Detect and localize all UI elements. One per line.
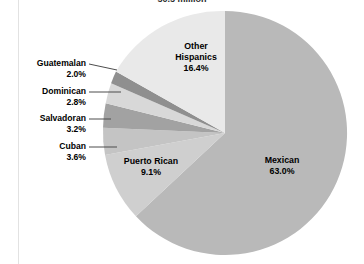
callout-dominican-pct: 2.8%	[42, 97, 86, 108]
callout-salvadoran: Salvadoran 3.2%	[40, 113, 86, 134]
callout-cuban: Cuban 3.6%	[59, 141, 86, 162]
callout-cuban-pct: 3.6%	[59, 152, 86, 163]
callout-guatemalan: Guatemalan 2.0%	[37, 58, 86, 79]
label-mexican-name: Mexican	[265, 155, 300, 165]
label-other-hispanics: Other Hispanics 16.4%	[160, 41, 232, 74]
label-puerto-rican: Puerto Rican 9.1%	[108, 156, 194, 178]
callout-salvadoran-name: Salvadoran	[40, 113, 86, 123]
label-mexican: Mexican 63.0%	[243, 155, 321, 177]
label-mexican-pct: 63.0%	[243, 166, 321, 177]
callout-cuban-name: Cuban	[59, 141, 86, 151]
label-other-hispanics-pct: 16.4%	[160, 63, 232, 74]
label-puerto-rican-pct: 9.1%	[108, 167, 194, 178]
callout-salvadoran-pct: 3.2%	[40, 124, 86, 135]
pie-chart-figure: 50.5 million Guatemalan 2.0% Dominican 2…	[0, 0, 364, 264]
label-other-hispanics-name1: Other	[184, 41, 207, 51]
callout-dominican: Dominican 2.8%	[42, 86, 86, 107]
leader-line-guatemalan	[89, 64, 117, 70]
callout-guatemalan-name: Guatemalan	[37, 58, 86, 68]
label-other-hispanics-name2: Hispanics	[160, 52, 232, 63]
callout-dominican-name: Dominican	[42, 86, 86, 96]
label-puerto-rican-name: Puerto Rican	[124, 156, 178, 166]
callout-guatemalan-pct: 2.0%	[37, 69, 86, 80]
